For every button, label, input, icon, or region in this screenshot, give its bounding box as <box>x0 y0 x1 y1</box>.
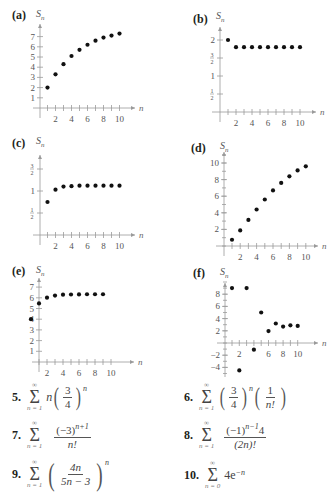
x-axis-arrow-icon <box>131 106 135 110</box>
x-axis-arrow-icon <box>131 233 135 237</box>
data-point <box>85 43 89 47</box>
problem-10: 10. ∞ Σ n = 0 4e−n <box>184 460 245 490</box>
y-tick-label: 7 <box>30 282 35 292</box>
data-point <box>69 292 73 296</box>
y-tick-label: 7 <box>31 32 36 42</box>
data-point <box>85 292 89 296</box>
data-point <box>61 185 65 189</box>
data-point <box>266 329 270 333</box>
y-axis-arrow-icon <box>218 27 222 31</box>
data-point <box>230 286 234 290</box>
data-point <box>77 184 81 188</box>
summation-7: ∞ Σ n = 1 <box>27 420 42 450</box>
x-axis-label: n <box>139 230 144 240</box>
svg-text:2: 2 <box>211 95 214 101</box>
y-tick-label: 1 <box>31 93 36 103</box>
summation-9: ∞ Σ n = 1 <box>27 459 42 489</box>
x-axis-label: n <box>322 241 327 251</box>
chart-f: n26810−4−22468 <box>210 282 327 377</box>
data-point <box>45 200 49 204</box>
y-tick-label: −2 <box>210 350 220 360</box>
data-point <box>242 45 246 49</box>
x-tick-label: 10 <box>293 349 303 359</box>
data-point <box>274 321 278 325</box>
y-tick-label: 3 <box>31 163 34 169</box>
x-tick-label: 6 <box>271 252 276 262</box>
x-tick-label: 8 <box>287 252 292 262</box>
data-point <box>109 33 113 37</box>
data-point <box>237 368 241 372</box>
x-tick-label: 4 <box>69 241 74 251</box>
y-tick-label: 2 <box>30 336 35 346</box>
data-point <box>101 292 105 296</box>
x-tick-label: 8 <box>101 241 106 251</box>
x-axis-label: n <box>138 357 143 367</box>
data-point <box>85 184 89 188</box>
data-point <box>69 54 73 58</box>
y-tick-label: 6 <box>216 301 221 311</box>
data-point <box>234 45 238 49</box>
y-tick-label: −4 <box>210 362 220 372</box>
y-axis-arrow-icon <box>223 283 227 287</box>
x-tick-label: 4 <box>254 252 259 262</box>
x-tick-label: 2 <box>234 118 239 128</box>
data-point <box>53 72 57 76</box>
data-point <box>45 296 49 300</box>
y-axis-arrow-icon <box>38 24 42 28</box>
x-tick-label: 10 <box>115 114 125 124</box>
y-tick-label: 1 <box>31 207 34 213</box>
data-point <box>29 317 33 321</box>
data-point <box>37 301 41 305</box>
y-tick-label: 2 <box>31 83 36 93</box>
y-tick-label: 1 <box>211 71 216 81</box>
summation-5: ∞ Σ n = 1 <box>27 382 42 412</box>
y-axis-arrow-icon <box>38 155 42 159</box>
data-point <box>287 174 291 178</box>
data-point <box>266 45 270 49</box>
data-point <box>226 38 230 42</box>
x-tick-label: 4 <box>250 118 255 128</box>
x-tick-label: 2 <box>45 368 50 378</box>
data-point <box>53 293 57 297</box>
y-tick-label: 1 <box>211 88 214 94</box>
data-point <box>250 45 254 49</box>
x-axis-arrow-icon <box>314 244 318 248</box>
x-tick-label: 2 <box>237 349 242 359</box>
summation-10: ∞ Σ n = 0 <box>205 460 220 490</box>
y-tick-label: 10 <box>210 158 220 168</box>
chart-e: n2468101234567 <box>29 278 143 378</box>
data-point <box>101 184 105 188</box>
x-tick-label: 10 <box>115 241 125 251</box>
data-point <box>230 238 234 242</box>
problem-9: 9. ∞ Σ n = 1 ( 4n5n − 3 )n <box>12 458 109 490</box>
y-tick-label: 3 <box>31 72 36 82</box>
svg-text:2: 2 <box>31 170 34 176</box>
y-tick-label: 6 <box>31 42 36 52</box>
y-axis-arrow-icon <box>37 278 41 282</box>
x-axis-label: n <box>139 103 144 113</box>
y-tick-label: 2 <box>216 326 221 336</box>
data-point <box>271 188 275 192</box>
summation-8: ∞ Σ n = 1 <box>199 420 214 450</box>
problem-6: 6. ∞ Σ n = 1 ( 34 )n ( 1n! ) <box>184 382 288 412</box>
data-point <box>109 184 113 188</box>
data-point <box>246 218 250 222</box>
chart-b: n246810121322 <box>210 27 325 128</box>
svg-text:2: 2 <box>31 214 34 220</box>
x-axis-arrow-icon <box>130 360 134 364</box>
data-point <box>45 86 49 90</box>
data-point <box>296 324 300 328</box>
chart-a: n2468101234567 <box>31 24 145 124</box>
data-point <box>274 45 278 49</box>
y-tick-label: 2 <box>215 224 220 234</box>
y-tick-label: 5 <box>31 52 36 62</box>
x-tick-label: 2 <box>53 114 58 124</box>
data-point <box>93 292 97 296</box>
data-point <box>69 184 73 188</box>
data-point <box>252 348 256 352</box>
x-tick-label: 8 <box>281 349 286 359</box>
y-tick-label: 3 <box>30 325 35 335</box>
y-tick-label: 1 <box>31 186 36 196</box>
data-point <box>101 36 105 40</box>
x-tick-label: 2 <box>238 252 243 262</box>
